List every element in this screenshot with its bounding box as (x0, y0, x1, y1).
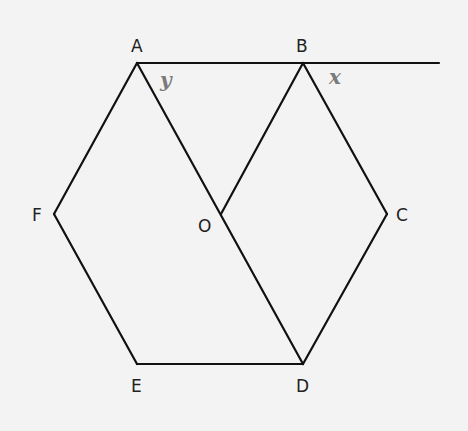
vertex-label-b: B (296, 36, 308, 56)
vertex-label-a: A (131, 36, 143, 56)
vertex-label-c: C (396, 205, 408, 225)
segment-bo (221, 63, 303, 214)
vertex-labels: A B C O F E D (32, 36, 408, 396)
vertex-label-d: D (296, 376, 309, 396)
edge-fa (54, 63, 137, 214)
vertex-label-e: E (131, 376, 142, 396)
angle-label-y: y (159, 68, 173, 92)
edge-cd (303, 214, 387, 364)
vertex-label-f: F (32, 205, 42, 225)
hexagon-diagram: A B C O F E D y x (0, 0, 468, 431)
vertex-label-o: O (198, 216, 211, 236)
edge-ef (54, 214, 137, 364)
hexagon-edges (54, 63, 439, 364)
angle-labels: y x (159, 65, 342, 92)
angle-label-x: x (328, 65, 342, 89)
edge-bc (303, 63, 387, 214)
